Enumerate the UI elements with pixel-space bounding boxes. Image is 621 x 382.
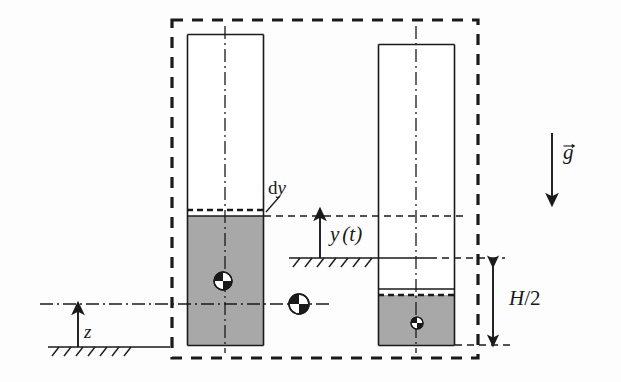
h-over-2-denominator: 2 [530,286,541,310]
center-of-mass-right [411,317,423,329]
vector-arrow-accent-icon [563,142,576,149]
z-axis-label-symbol: z [84,321,91,342]
figure-canvas [0,0,621,382]
y-of-t-label: y(t) [330,224,362,245]
h-over-2-numerator: H [509,286,524,310]
h-over-2-label: H/2 [509,288,541,309]
center-of-mass-left [214,272,232,290]
manometer-figure: dy y(t) H/2 g z [0,0,621,382]
y-of-t-label-arg: (t) [339,222,362,246]
z-axis-label: z [84,322,91,341]
dy-label: dy [268,178,286,197]
y-of-t-label-y: y [330,222,339,246]
ground-hatching [52,347,131,356]
center-of-mass-middle [289,294,309,314]
dy-leader-line [266,196,280,212]
datum-hatching [293,258,372,267]
gravity-label: g [563,142,574,163]
dy-label-d: d [268,177,278,198]
dy-label-y: y [278,177,286,198]
